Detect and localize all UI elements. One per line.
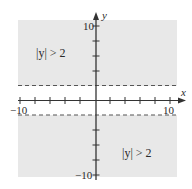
x-axis-arrow-icon xyxy=(178,98,186,104)
x-axis xyxy=(18,97,186,104)
x-tick-label-max: 10 xyxy=(163,104,175,116)
inequality-label-top: |y| > 2 xyxy=(36,46,66,60)
y-tick-label-max: 10 xyxy=(83,20,95,32)
inequality-label-bottom: |y| > 2 xyxy=(122,146,152,160)
x-tick-label-min: −10 xyxy=(10,104,28,116)
y-tick-label-min: −10 xyxy=(75,169,93,181)
y-axis-arrow-icon xyxy=(93,12,99,20)
x-axis-label: x xyxy=(180,86,186,98)
inequality-graph: y x 10 −10 −10 10 |y| > 2 |y| > 2 xyxy=(0,0,192,189)
shaded-region-bottom xyxy=(18,115,177,177)
y-axis-label: y xyxy=(101,9,107,21)
